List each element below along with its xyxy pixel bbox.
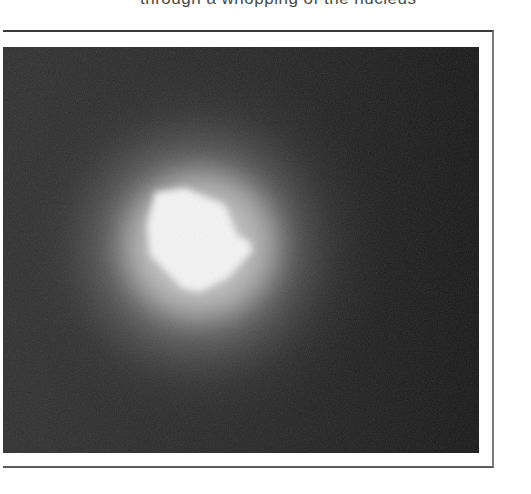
clipped-caption-text: through a whopping of the nucleus (140, 0, 490, 9)
film-grain (3, 47, 479, 453)
caption-text: through a whopping of the nucleus (140, 0, 416, 8)
comet-image-svg (3, 47, 479, 453)
comet-photograph (3, 47, 479, 453)
